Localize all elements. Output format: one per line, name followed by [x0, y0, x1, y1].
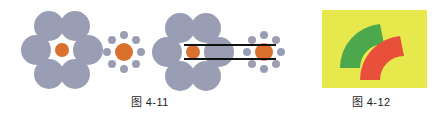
- surround-circle: [108, 60, 116, 68]
- surround-circle: [248, 60, 256, 68]
- surround-circle: [272, 60, 280, 68]
- surround-circle: [108, 36, 116, 44]
- jastrow-arcs: [322, 10, 427, 88]
- cluster-small-surround-measured: [243, 31, 285, 73]
- surround-circle: [34, 59, 64, 89]
- surround-circle: [191, 61, 221, 91]
- surround-circle: [103, 48, 111, 56]
- surround-circle: [165, 61, 195, 91]
- surround-circle: [260, 31, 268, 39]
- surround-circle: [260, 65, 268, 73]
- surround-circle: [243, 48, 251, 56]
- surround-circle: [132, 60, 140, 68]
- cluster-small-surround: [103, 31, 145, 73]
- surround-circle: [120, 31, 128, 39]
- surround-circle: [248, 36, 256, 44]
- cluster-large-surround: [21, 11, 103, 89]
- figure-page: 图 4-11 图 4-12: [0, 0, 448, 119]
- cluster-large-surround-measured: [152, 13, 234, 91]
- center-circle: [186, 45, 200, 59]
- surround-circle: [272, 36, 280, 44]
- surround-circle: [277, 48, 285, 56]
- surround-circle: [120, 65, 128, 73]
- center-circle: [115, 43, 133, 61]
- surround-circle: [132, 36, 140, 44]
- jastrow-illusion-panel: [322, 10, 427, 88]
- center-circle: [55, 43, 69, 57]
- surround-circle: [137, 48, 145, 56]
- surround-circle: [60, 59, 90, 89]
- figure-caption-4-11: 图 4-11: [131, 93, 169, 109]
- figure-caption-4-12: 图 4-12: [352, 93, 390, 109]
